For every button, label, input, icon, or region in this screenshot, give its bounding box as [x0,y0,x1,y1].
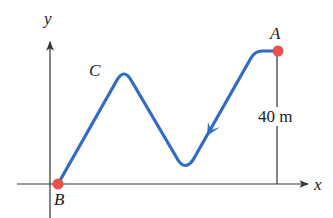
point-b-marker [53,179,64,190]
point-c-label: C [89,62,100,79]
point-a-label: A [270,25,280,42]
height-label: 40 m [258,107,292,126]
point-b-label: B [54,191,64,208]
y-axis-label: y [44,10,52,27]
point-a-marker [273,46,284,57]
x-axis-label: x [314,176,322,193]
